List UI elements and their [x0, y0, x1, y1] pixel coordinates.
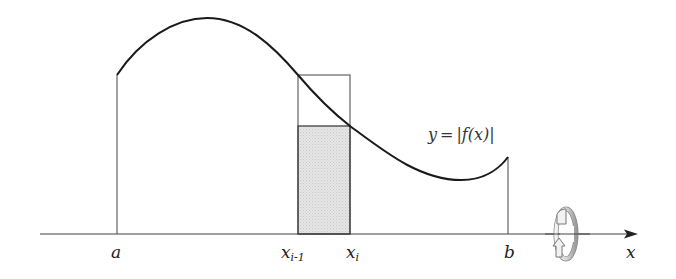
tick-label-x-i-text: x	[346, 242, 356, 262]
tick-label-a: a	[111, 244, 121, 261]
tick-label-x-i: xi	[346, 244, 359, 263]
curve-label-equals: =	[440, 125, 453, 144]
tick-label-x-i-minus-1: xi-1	[281, 244, 305, 263]
tick-label-x-i-minus-1-subscript: i-1	[291, 251, 305, 264]
tick-label-b: b	[504, 244, 515, 261]
shaded-rectangle	[298, 126, 350, 234]
rotation-arrow-icon	[545, 209, 590, 259]
axis-label-x-text: x	[626, 242, 636, 262]
curve-label-lhs: y	[428, 125, 437, 144]
axis-label-x: x	[626, 244, 636, 261]
tick-label-a-text: a	[111, 242, 121, 262]
tick-label-b-text: b	[504, 242, 515, 262]
tick-label-x-i-minus-1-text: x	[281, 242, 291, 262]
riemann-diagram	[0, 0, 676, 279]
tick-label-x-i-subscript: i	[356, 251, 360, 264]
curve-label-rhs: |f(x)|	[456, 125, 494, 144]
curve-label: y=|f(x)|	[428, 127, 495, 143]
